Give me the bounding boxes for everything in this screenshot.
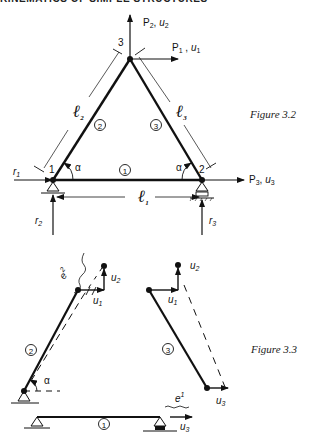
- label-p1-u1: P1 , u1: [172, 42, 200, 54]
- length-l1: ℓ1: [138, 187, 149, 207]
- pin-support-icon: [41, 182, 65, 193]
- label-r2: r2: [35, 215, 42, 227]
- node-3-label: 3: [118, 37, 124, 48]
- member-2: [53, 59, 130, 180]
- label-p2-u2: P2, u2: [143, 17, 169, 29]
- label-r1: r1: [13, 166, 20, 178]
- member-1-label-fig33: 1: [102, 421, 107, 430]
- node-1-label: 1: [49, 164, 55, 175]
- label-u1-right: u1: [168, 294, 178, 306]
- strain-e1-wavy: [165, 406, 189, 408]
- angle-arc-left: [64, 163, 73, 180]
- member-3-label: 3: [154, 122, 159, 131]
- length-l3: ℓ3: [176, 102, 187, 122]
- strain-e2-wavy: [74, 253, 86, 293]
- member-2-label-fig33: 2: [29, 347, 34, 356]
- dimension-l2-upper: [89, 52, 119, 97]
- label-e2: e2: [55, 266, 71, 281]
- member-2-displaced: [24, 290, 78, 391]
- alpha-right: α: [176, 162, 182, 173]
- angle-arc-right: [182, 163, 191, 180]
- label-u3-member3: u3: [216, 395, 226, 407]
- figure-3-3-caption: Figure 3.3: [250, 343, 298, 355]
- member-3-deformed-dashed: [184, 285, 225, 387]
- dimension-l3-upper: [139, 57, 170, 102]
- label-p3-u3: P3, u3: [249, 174, 275, 186]
- roller-support-icon: [190, 182, 214, 201]
- node-2-label: 2: [199, 164, 205, 175]
- alpha-left: α: [75, 162, 81, 173]
- truss-diagram: 1 2 3 1 2 3 α α ℓ2 ℓ3 ℓ1 P2, u2 P1 , u1 …: [0, 0, 318, 444]
- length-l2: ℓ2: [73, 102, 84, 122]
- pin-support-icon: [31, 417, 43, 426]
- roller-support-icon: [154, 417, 166, 426]
- label-u2-left: u2: [111, 272, 121, 284]
- member-2-label: 2: [98, 122, 103, 131]
- label-u2-right: u2: [190, 260, 200, 272]
- label-u1-left: u1: [93, 295, 103, 307]
- member-3: [130, 59, 202, 180]
- member-2-deformed-dashed: [31, 296, 83, 381]
- label-e1: e1: [175, 391, 185, 404]
- alpha-fig33: α: [44, 375, 50, 386]
- member-3-label-fig33: 3: [166, 346, 171, 355]
- label-u3-member1: u3: [180, 421, 190, 433]
- figure-3-2-caption: Figure 3.2: [249, 108, 297, 120]
- figure-3-3: α 2 e2 u2 u1 3 u2 u1 u3 1 e1 u3: [11, 253, 298, 433]
- member-3-displaced: [149, 290, 207, 388]
- member-1-label: 1: [123, 167, 128, 176]
- dimension-l3-lower: [184, 125, 211, 168]
- figure-3-2: 1 2 3 1 2 3 α α ℓ2 ℓ3 ℓ1 P2, u2 P1 , u1 …: [13, 15, 297, 235]
- label-r3: r3: [209, 215, 216, 227]
